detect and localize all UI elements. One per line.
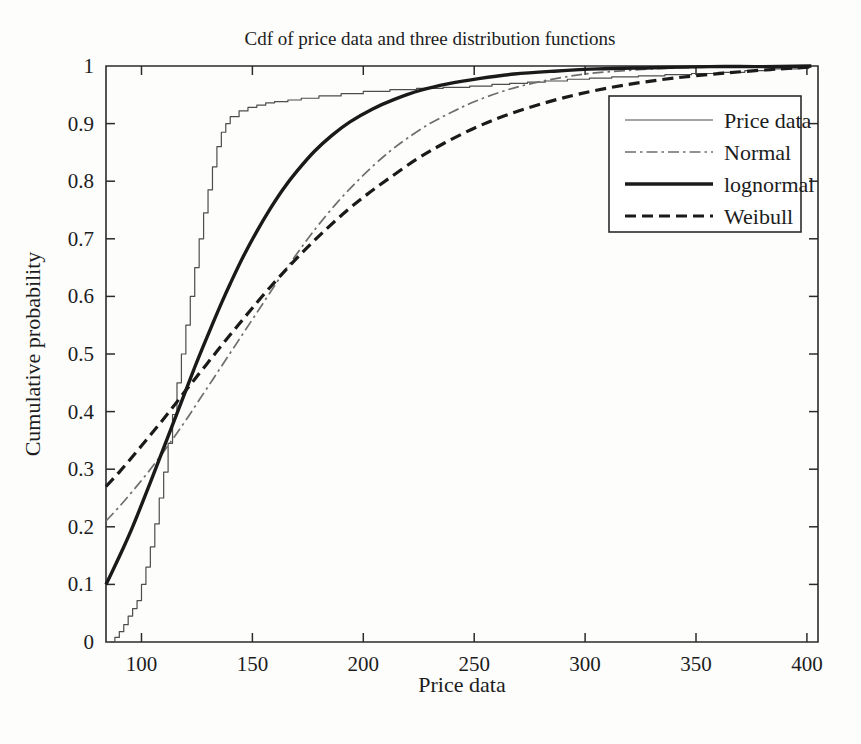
- legend-label-lognormal: lognormal: [724, 172, 814, 197]
- x-tick-label: 400: [791, 652, 823, 676]
- y-tick-label: 0.6: [68, 284, 94, 308]
- chart-title: Cdf of price data and three distribution…: [245, 28, 616, 49]
- y-tick-label: 0.8: [68, 169, 94, 193]
- figure-container: Cdf of price data and three distribution…: [0, 0, 861, 744]
- x-axis-title: Price data: [418, 672, 506, 697]
- y-tick-label: 0.1: [68, 572, 94, 596]
- legend: Price dataNormallognormalWeibull: [609, 96, 814, 232]
- y-axis-title: Cumulative probability: [20, 252, 45, 457]
- y-tick-label: 0: [84, 630, 95, 654]
- legend-label-price-data: Price data: [724, 108, 812, 133]
- y-tick-label: 0.4: [68, 400, 95, 424]
- y-tick-label: 0.2: [68, 515, 94, 539]
- x-tick-label: 350: [680, 652, 712, 676]
- x-tick-label: 100: [126, 652, 158, 676]
- legend-label-weibull: Weibull: [724, 204, 793, 229]
- legend-label-normal: Normal: [724, 140, 791, 165]
- x-tick-label: 150: [237, 652, 269, 676]
- y-tick-label: 0.9: [68, 112, 94, 136]
- y-tick-label: 0.3: [68, 457, 94, 481]
- y-tick-label: 1: [84, 54, 95, 78]
- cdf-chart: Cdf of price data and three distribution…: [0, 0, 861, 744]
- x-tick-label: 200: [348, 652, 380, 676]
- y-tick-label: 0.5: [68, 342, 94, 366]
- y-tick-label: 0.7: [68, 227, 94, 251]
- x-tick-label: 300: [569, 652, 601, 676]
